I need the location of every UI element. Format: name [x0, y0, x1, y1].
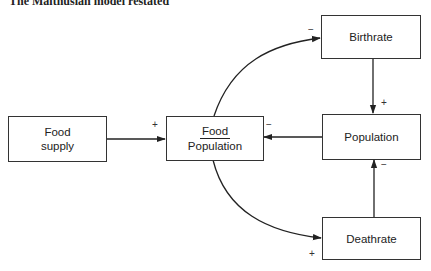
sign-ratio-to-deathrate: +	[309, 249, 315, 259]
sign-birthrate-to-population: +	[381, 98, 387, 108]
ratio-fraction: Food Population	[188, 125, 242, 153]
node-food-per-population: Food Population	[166, 116, 264, 161]
food-supply-label-line1: Food	[41, 125, 74, 139]
arrow-ratio-to-deathrate	[213, 160, 321, 238]
ratio-numerator: Food	[200, 125, 230, 139]
deathrate-label: Deathrate	[346, 232, 397, 246]
sign-population-to-ratio: −	[266, 120, 272, 130]
birthrate-label: Birthrate	[349, 30, 392, 44]
ratio-denominator: Population	[188, 139, 242, 153]
population-label: Population	[344, 130, 398, 144]
node-population: Population	[322, 114, 421, 160]
food-supply-label-line2: supply	[41, 139, 74, 153]
node-deathrate: Deathrate	[322, 217, 421, 260]
sign-ratio-to-birthrate: −	[308, 25, 314, 35]
sign-food-to-ratio: +	[152, 120, 158, 130]
node-food-supply: Food supply	[8, 116, 107, 162]
node-birthrate: Birthrate	[321, 15, 421, 59]
sign-deathrate-to-population: −	[381, 160, 387, 170]
arrow-ratio-to-birthrate	[214, 38, 320, 116]
